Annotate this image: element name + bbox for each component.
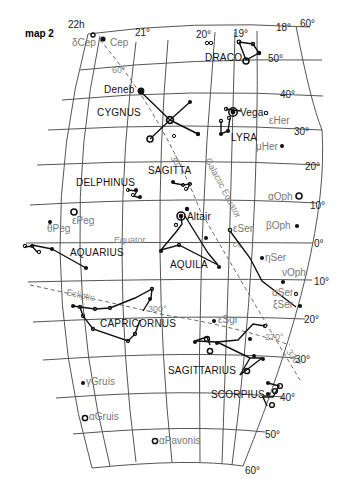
svg-text:20°: 20° [196, 29, 211, 40]
svg-text:εPeg: εPeg [72, 215, 94, 226]
svg-text:SAGITTA: SAGITTA [148, 165, 192, 176]
ecliptic-tick: 270° [265, 332, 284, 342]
svg-text:10°: 10° [310, 200, 325, 211]
svg-text:CYGNUS: CYGNUS [97, 107, 141, 118]
svg-text:50°: 50° [265, 429, 280, 440]
star-alpha-oph [296, 193, 302, 199]
svg-text:μHer: μHer [256, 141, 279, 152]
svg-text:αGruis: αGruis [89, 411, 119, 422]
star-map: map 2 Galactic Equator 60° 30° 0° 330° E… [0, 0, 341, 487]
svg-text:ηSer: ηSer [265, 252, 287, 263]
stars [23, 33, 302, 444]
svg-text:Deneb: Deneb [104, 84, 135, 95]
svg-text:αSer: αSer [272, 287, 294, 298]
svg-text:AQUILA: AQUILA [170, 259, 208, 270]
svg-text:αOph: αOph [268, 191, 293, 202]
svg-text:LYRA: LYRA [231, 132, 257, 143]
svg-text:SCORPIUS: SCORPIUS [211, 389, 265, 400]
svg-text:DELPHINUS: DELPHINUS [76, 177, 135, 188]
svg-text:εHer: εHer [269, 115, 290, 126]
svg-text:γGruis: γGruis [86, 376, 115, 387]
svg-text:50°: 50° [268, 53, 283, 64]
svg-text:δCep: δCep [72, 37, 96, 48]
svg-text:Vega: Vega [240, 107, 264, 118]
equator-label: Equator [114, 235, 146, 245]
star-deneb [138, 88, 145, 95]
svg-text:εSer: εSer [233, 223, 254, 234]
ra-labels: 22h 21° 20° 19° 18° 60° [68, 18, 315, 40]
svg-text:30°: 30° [295, 354, 310, 365]
svg-text:60°: 60° [300, 18, 315, 29]
svg-text:40°: 40° [280, 392, 295, 403]
svg-text:40°: 40° [280, 89, 295, 100]
svg-text:CAPRICORNUS: CAPRICORNUS [100, 318, 176, 329]
svg-text:νOph: νOph [282, 267, 306, 278]
svg-text:AQUARIUS: AQUARIUS [70, 247, 124, 258]
svg-text:18°: 18° [276, 22, 291, 33]
svg-text:Cep: Cep [110, 37, 129, 48]
svg-text:ξSer: ξSer [273, 299, 294, 311]
svg-text:θPeg: θPeg [47, 223, 70, 234]
map-title: map 2 [25, 28, 54, 39]
svg-text:10°: 10° [314, 276, 329, 287]
svg-text:22h: 22h [68, 19, 85, 30]
ecliptic-label: Ecliptic [66, 287, 96, 303]
svg-text:20°: 20° [305, 161, 320, 172]
svg-text:30°: 30° [294, 126, 309, 137]
svg-text:20°: 20° [304, 314, 319, 325]
svg-text:SAGITTARIUS: SAGITTARIUS [168, 365, 236, 376]
svg-text:Altair: Altair [187, 211, 211, 222]
svg-text:DRACO: DRACO [205, 52, 242, 63]
svg-text:αPavonis: αPavonis [159, 435, 200, 446]
svg-text:βOph: βOph [266, 220, 291, 231]
svg-text:60°: 60° [245, 465, 260, 476]
svg-text:εSgr: εSgr [218, 314, 239, 325]
svg-text:19°: 19° [233, 28, 248, 39]
svg-text:0°: 0° [314, 238, 324, 249]
star-alpha-cep [100, 36, 105, 41]
galactic-tick: 60° [112, 65, 126, 75]
ecliptic-tick: 300° [148, 304, 167, 314]
svg-text:21°: 21° [135, 27, 150, 38]
